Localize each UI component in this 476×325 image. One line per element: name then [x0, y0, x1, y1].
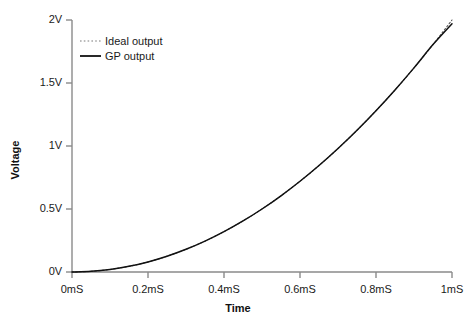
y-tick-label-1: 0.5V — [20, 202, 62, 214]
x-tick-label-3: 0.6mS — [270, 283, 330, 295]
x-tick-label-4: 0.8mS — [346, 283, 406, 295]
x-tick-label-0: 0mS — [42, 283, 102, 295]
legend-label-gp-output: GP output — [105, 50, 154, 62]
plot-area — [0, 0, 476, 325]
chart-figure: 0V 0.5V 1V 1.5V 2V 0mS 0.2mS 0.4mS 0.6mS… — [0, 0, 476, 325]
y-axis-title-wrap: Voltage — [4, 118, 26, 208]
x-tick-marks — [72, 272, 452, 278]
y-tick-marks — [66, 20, 72, 272]
x-tick-label-1: 0.2mS — [118, 283, 178, 295]
legend-label-ideal-output: Ideal output — [105, 35, 163, 47]
y-tick-label-2: 1V — [20, 139, 62, 151]
y-axis-title: Voltage — [9, 115, 21, 205]
x-tick-label-5: 1mS — [422, 283, 476, 295]
y-tick-label-4: 2V — [20, 13, 62, 25]
y-tick-label-3: 1.5V — [20, 76, 62, 88]
x-axis-title: Time — [0, 302, 476, 314]
x-tick-label-2: 0.4mS — [194, 283, 254, 295]
y-tick-label-0: 0V — [20, 265, 62, 277]
